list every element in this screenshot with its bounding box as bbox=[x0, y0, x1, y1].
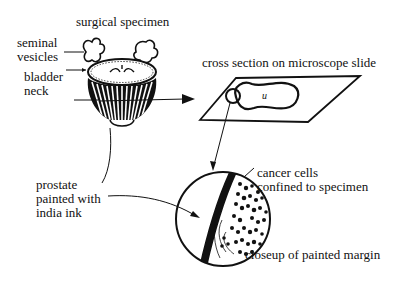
label-bladder-neck-1: bladder bbox=[24, 70, 63, 84]
label-bladder-neck-2: neck bbox=[24, 84, 49, 98]
slide-mark: и bbox=[262, 89, 267, 103]
label-prostate-3: india ink bbox=[36, 206, 82, 220]
label-surgical-specimen: surgical specimen bbox=[76, 15, 169, 29]
diagram-drawing bbox=[0, 0, 398, 281]
label-seminal-vesicles-1: seminal bbox=[17, 36, 57, 50]
label-cancer-cells-2: confined to specimen bbox=[257, 180, 368, 194]
label-cross-section: cross section on microscope slide bbox=[202, 56, 376, 70]
microscope-slide-icon bbox=[200, 76, 360, 122]
label-prostate-2: painted with bbox=[36, 192, 101, 206]
label-closeup: closeup of painted margin bbox=[245, 248, 380, 262]
bladder-neck-rim bbox=[88, 59, 156, 85]
label-cancer-cells-1: cancer cells bbox=[257, 166, 318, 180]
prostate-margin-diagram: surgical specimen seminal vesicles bladd… bbox=[0, 0, 398, 281]
label-seminal-vesicles-2: vesicles bbox=[17, 50, 58, 64]
label-prostate-1: prostate bbox=[36, 178, 77, 192]
